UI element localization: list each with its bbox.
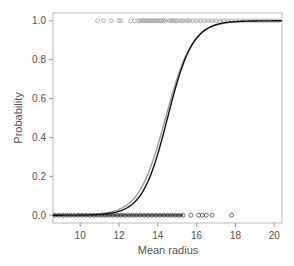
x-axis: 101214161820 bbox=[75, 223, 281, 241]
data-point bbox=[133, 19, 137, 23]
data-point bbox=[129, 19, 133, 23]
data-point bbox=[109, 19, 113, 23]
y-tick-label: 0.8 bbox=[32, 54, 46, 65]
fitted-curves bbox=[53, 21, 282, 215]
y-tick-label: 0.0 bbox=[32, 210, 46, 221]
y-axis: 0.00.20.40.60.81.0 bbox=[32, 15, 53, 220]
y-tick-label: 0.2 bbox=[32, 171, 46, 182]
y-tick-label: 0.4 bbox=[32, 132, 46, 143]
x-tick-label: 14 bbox=[152, 230, 164, 241]
data-point bbox=[96, 19, 100, 23]
logistic-curve bbox=[53, 21, 282, 215]
x-tick-label: 20 bbox=[269, 230, 281, 241]
x-axis-label: Mean radius bbox=[138, 244, 199, 256]
data-point bbox=[189, 213, 193, 217]
data-point bbox=[204, 213, 208, 217]
data-point bbox=[197, 213, 201, 217]
y-tick-label: 1.0 bbox=[32, 15, 46, 26]
x-tick-label: 10 bbox=[75, 230, 87, 241]
x-tick-label: 18 bbox=[230, 230, 242, 241]
data-point bbox=[101, 19, 105, 23]
data-point bbox=[210, 213, 214, 217]
data-points bbox=[53, 19, 280, 217]
y-tick-label: 0.6 bbox=[32, 93, 46, 104]
y-axis-label: Probability bbox=[12, 92, 24, 144]
logistic-regression-chart: 101214161820 0.00.20.40.60.81.0 Mean rad… bbox=[0, 0, 294, 266]
x-tick-label: 12 bbox=[113, 230, 125, 241]
data-point bbox=[200, 213, 204, 217]
data-point bbox=[230, 213, 234, 217]
x-tick-label: 16 bbox=[191, 230, 203, 241]
